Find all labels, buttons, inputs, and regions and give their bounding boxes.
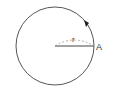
radius-label: r (72, 35, 75, 44)
point-a-label: A (96, 42, 102, 52)
circle-diagram: r A (0, 0, 114, 96)
